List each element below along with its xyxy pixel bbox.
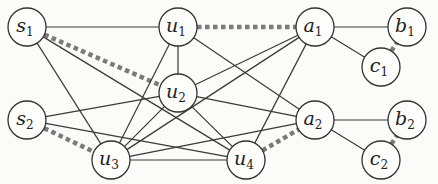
graph-canvas: s1u1a1b1c1u2s2a2b2u3u4c2 [0,0,438,184]
node-a2: a2 [296,101,334,139]
edge-s2-u2 [46,96,160,116]
node-u3: u3 [92,141,130,179]
edge-u2-a2 [197,97,297,117]
edge-a1-u2 [195,35,298,85]
edges-layer [37,27,396,160]
nodes-layer: s1u1a1b1c1u2s2a2b2u3u4c2 [8,8,426,179]
node-b1: b1 [388,8,426,46]
edge-a1-c1 [331,37,365,57]
edge-u1-a2 [194,38,300,110]
node-c2: c2 [362,141,400,179]
edge-u4-a2-dashed [262,130,298,151]
edge-s2-u4 [46,123,228,156]
node-b2: b2 [388,101,426,139]
node-s2: s2 [8,101,46,139]
edge-a2-c2 [331,130,365,150]
edge-u2-u3 [124,106,164,146]
edge-u3-a2 [130,124,297,157]
edge-s1-u4 [43,37,230,150]
edge-c1-b1-dashed [391,43,396,51]
node-c1: c1 [362,48,400,86]
node-a1: a1 [296,8,334,46]
edge-s2-u3-dashed [44,128,94,152]
graph-diagram: s1u1a1b1c1u2s2a2b2u3u4c2 [0,0,438,184]
node-u4: u4 [227,141,265,179]
edge-s1-u2-dashed [44,35,160,86]
node-u1: u1 [159,8,197,46]
node-u2: u2 [159,74,197,112]
edge-c2-b2-dashed [391,136,396,144]
edge-a1-u3 [127,37,299,149]
node-s1: s1 [8,8,46,46]
